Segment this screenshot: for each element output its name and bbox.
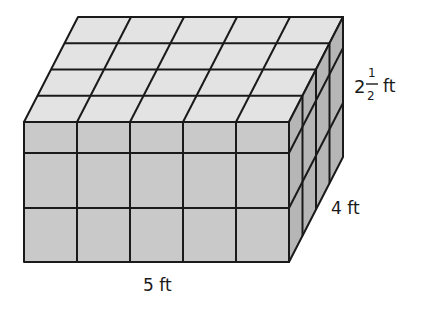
length-label: 5 ft — [143, 275, 172, 295]
depth-label: 4 ft — [331, 198, 360, 218]
height-unit: ft — [383, 76, 396, 96]
height-denominator: 2 — [367, 89, 375, 103]
height-label: 2 1 2 ft — [354, 66, 396, 103]
height-whole: 2 — [354, 76, 365, 97]
rectangular-prism-diagram: 5 ft 4 ft 2 1 2 ft — [0, 0, 426, 309]
height-numerator: 1 — [368, 66, 376, 80]
front-face — [24, 122, 289, 262]
